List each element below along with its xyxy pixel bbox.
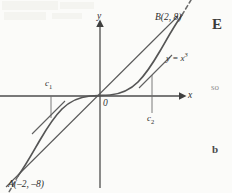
point-b-label: B(2, 8): [155, 13, 181, 23]
c2-label: c2: [147, 114, 154, 125]
margin-fragment-middle: so: [211, 83, 219, 92]
margin-fragment-top: E: [212, 17, 222, 32]
c1-label: c1: [45, 79, 52, 90]
curve-equation-exponent: 3: [185, 51, 188, 58]
tangent-at-c1: [32, 101, 65, 134]
x-axis-label: x: [188, 91, 192, 101]
mean-value-theorem-figure: y x 0 B(2, 8) A(–2, –8) c1 c2 y = x3 E s…: [0, 0, 232, 193]
plot-canvas: [0, 0, 232, 193]
origin-label: 0: [103, 99, 108, 109]
point-a-label: A(–2, –8): [8, 180, 44, 190]
margin-fragment-bottom: b: [212, 144, 218, 155]
curve-equation-label: y = x3: [166, 52, 188, 63]
curve-equation-base: y = x: [166, 53, 185, 63]
y-axis-label: y: [97, 12, 101, 22]
c2-subscript: 2: [151, 118, 154, 125]
c1-subscript: 1: [49, 83, 52, 90]
curve-extension-upper: [182, 0, 191, 15]
